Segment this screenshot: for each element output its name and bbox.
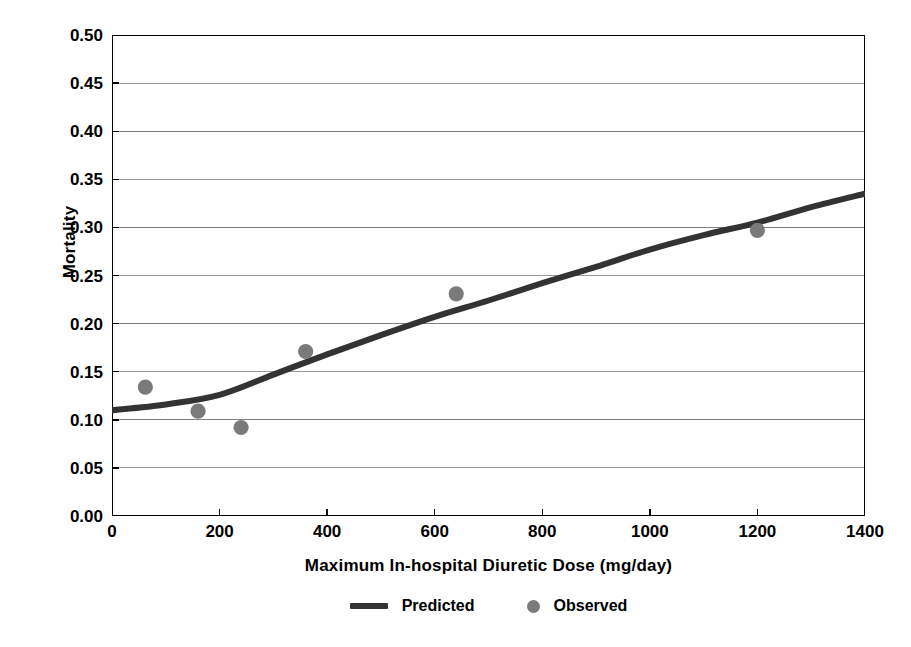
legend-entry-observed: Observed [527, 598, 628, 614]
x-tick-label: 600 [395, 523, 475, 540]
x-tick-label: 400 [287, 523, 367, 540]
x-tick-label: 1200 [717, 523, 797, 540]
x-tick-label: 200 [180, 523, 260, 540]
chart-figure: Mortality 0.000.050.100.150.200.250.300.… [0, 0, 911, 647]
y-axis-tick-marks [112, 35, 119, 516]
legend-label-predicted: Predicted [402, 598, 475, 614]
x-tick-label: 1400 [825, 523, 905, 540]
line-swatch-icon [350, 603, 388, 609]
circle-marker-icon [527, 600, 540, 613]
legend-entry-predicted: Predicted [350, 598, 475, 614]
plot-canvas [112, 35, 865, 516]
x-tick-label: 1000 [610, 523, 690, 540]
gridlines [112, 35, 865, 516]
plot-area [112, 35, 865, 516]
observed-data-points [138, 223, 765, 435]
x-tick-label: 0 [72, 523, 152, 540]
x-axis-title: Maximum In-hospital Diuretic Dose (mg/da… [112, 556, 865, 576]
x-axis-tick-marks [112, 509, 865, 516]
x-tick-label: 800 [502, 523, 582, 540]
chart-legend: Predicted Observed [112, 598, 865, 614]
legend-label-observed: Observed [554, 598, 628, 614]
